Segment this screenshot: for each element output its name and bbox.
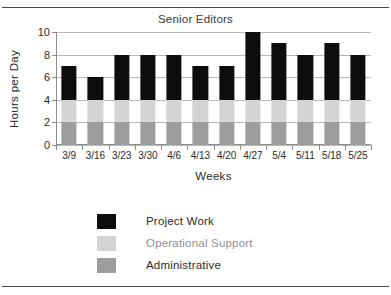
bar-slot xyxy=(56,32,82,145)
legend-swatch xyxy=(97,236,116,251)
bar-stack[interactable] xyxy=(298,55,313,145)
bar-segment xyxy=(272,100,287,123)
x-tick-mark xyxy=(371,145,372,150)
bar-segment xyxy=(88,77,103,100)
bar-slot xyxy=(161,32,187,145)
y-axis-label-text: Hours per Day xyxy=(8,49,20,127)
x-tick-label: 3/9 xyxy=(56,150,82,161)
chart-figure: Senior Editors Hours per Day 0246810 3/9… xyxy=(0,0,391,295)
bar-segment xyxy=(298,122,313,145)
bar-segment xyxy=(140,122,155,145)
plot-area: 0246810 xyxy=(56,32,371,145)
bar-segment xyxy=(219,100,234,123)
y-tick-label: 10 xyxy=(38,26,50,38)
bar-stack[interactable] xyxy=(114,55,129,145)
y-tick-label: 2 xyxy=(44,116,50,128)
bar-segment xyxy=(193,66,208,100)
bar-slot xyxy=(345,32,371,145)
legend-label: Operational Support xyxy=(146,237,253,249)
bar-stack[interactable] xyxy=(324,43,339,145)
legend-item[interactable]: Project Work xyxy=(97,210,253,232)
bar-slot xyxy=(292,32,318,145)
legend-swatch xyxy=(97,214,116,229)
x-tick-label: 4/6 xyxy=(161,150,187,161)
bar-stack[interactable] xyxy=(193,66,208,145)
x-tick-label: 5/25 xyxy=(345,150,371,161)
chart-legend: Project WorkOperational SupportAdministr… xyxy=(97,210,253,276)
bar-segment xyxy=(324,100,339,123)
bar-stack[interactable] xyxy=(167,55,182,145)
bar-segment xyxy=(298,100,313,123)
x-tick-label: 5/11 xyxy=(292,150,318,161)
bar-stack[interactable] xyxy=(219,66,234,145)
bar-segment xyxy=(298,55,313,100)
bar-segment xyxy=(272,122,287,145)
x-tick-label: 4/20 xyxy=(214,150,240,161)
bar-segment xyxy=(62,66,77,100)
bar-segment xyxy=(88,122,103,145)
x-tick-label: 5/18 xyxy=(319,150,345,161)
bar-segment xyxy=(245,32,260,100)
bar-segment xyxy=(350,122,365,145)
x-tick-label: 4/27 xyxy=(240,150,266,161)
clipped-title-above-rule xyxy=(0,0,391,6)
y-tick-label: 4 xyxy=(44,94,50,106)
bar-slot xyxy=(266,32,292,145)
bar-slot xyxy=(187,32,213,145)
bar-segment xyxy=(62,100,77,123)
bar-segment xyxy=(350,55,365,100)
legend-swatch xyxy=(97,258,116,273)
y-tick-label: 8 xyxy=(44,49,50,61)
bar-segment xyxy=(350,100,365,123)
legend-label: Project Work xyxy=(146,215,214,227)
bar-segment xyxy=(219,122,234,145)
x-axis-label: Weeks xyxy=(56,170,371,182)
bar-segment xyxy=(193,122,208,145)
bar-segment xyxy=(324,43,339,100)
bar-slot xyxy=(240,32,266,145)
bar-segment xyxy=(62,122,77,145)
bar-segment xyxy=(167,122,182,145)
x-tick-label: 3/16 xyxy=(82,150,108,161)
bar-stack[interactable] xyxy=(88,77,103,145)
bar-slot xyxy=(319,32,345,145)
bar-stack[interactable] xyxy=(62,66,77,145)
bar-segment xyxy=(167,100,182,123)
x-tick-label: 5/4 xyxy=(266,150,292,161)
bar-segment xyxy=(114,122,129,145)
bar-stack[interactable] xyxy=(272,43,287,145)
y-tick-label: 6 xyxy=(44,71,50,83)
bar-stack[interactable] xyxy=(350,55,365,145)
top-divider-rule xyxy=(2,7,389,8)
y-axis-label: Hours per Day xyxy=(6,32,22,145)
bar-segment xyxy=(193,100,208,123)
x-tick-label: 3/23 xyxy=(109,150,135,161)
y-tick-label: 0 xyxy=(44,139,50,151)
bar-segment xyxy=(140,55,155,100)
bar-segment xyxy=(167,55,182,100)
bar-segment xyxy=(324,122,339,145)
bar-stack[interactable] xyxy=(140,55,155,145)
bar-slot xyxy=(214,32,240,145)
legend-item[interactable]: Operational Support xyxy=(97,232,253,254)
bar-slot xyxy=(135,32,161,145)
bar-stack[interactable] xyxy=(245,32,260,145)
bar-slot xyxy=(82,32,108,145)
bar-segment xyxy=(114,100,129,123)
bar-segment xyxy=(88,100,103,123)
legend-item[interactable]: Administrative xyxy=(97,254,253,276)
x-tick-label: 4/13 xyxy=(187,150,213,161)
bar-segment xyxy=(140,100,155,123)
bar-segment xyxy=(245,122,260,145)
bar-segment xyxy=(114,55,129,100)
bar-segment xyxy=(272,43,287,100)
bar-series-layer xyxy=(56,32,371,145)
bar-slot xyxy=(109,32,135,145)
bar-segment xyxy=(245,100,260,123)
legend-label: Administrative xyxy=(146,259,221,271)
x-axis-tick-labels: 3/93/163/233/304/64/134/204/275/45/115/1… xyxy=(56,150,371,161)
x-tick-label: 3/30 xyxy=(135,150,161,161)
bottom-divider-rule xyxy=(2,286,389,287)
bar-segment xyxy=(219,66,234,100)
chart-title: Senior Editors xyxy=(0,13,391,25)
